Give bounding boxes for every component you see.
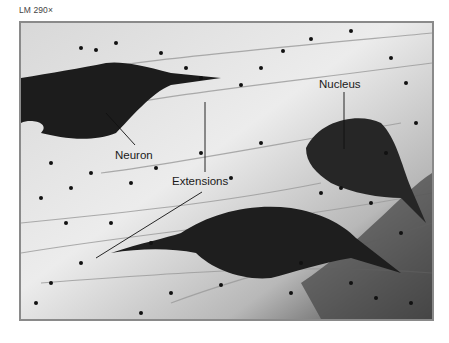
micrograph-image: [21, 23, 432, 319]
nucleus-label: Nucleus: [319, 78, 361, 90]
neuron-label: Neuron: [115, 149, 153, 161]
micrograph-frame: Neuron Extensions Nucleus: [19, 21, 434, 321]
magnification-label: LM 290×: [19, 5, 53, 15]
extensions-label: Extensions: [172, 175, 228, 187]
